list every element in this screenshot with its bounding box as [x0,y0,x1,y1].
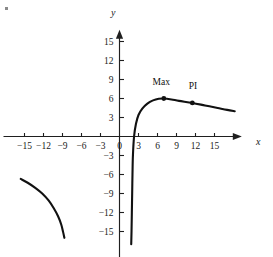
y-tick-label: 15 [104,37,114,47]
annotation-label: Max [153,77,171,87]
y-tick-label: −12 [99,208,114,218]
figure-background [0,0,273,257]
x-tick-label: −9 [57,141,67,151]
scan-artifact-speck [5,7,8,10]
x-tick-label: −15 [17,141,32,151]
y-tick-label: −15 [99,227,114,237]
x-tick-label: 12 [191,141,201,151]
annotation-marker-dot [161,96,166,101]
x-tick-label: 6 [155,141,160,151]
x-tick-label: −12 [36,141,51,151]
annotation-marker-dot [190,101,195,106]
y-tick-label: 3 [109,113,114,123]
x-tick-label: 9 [174,141,179,151]
y-tick-label: 6 [109,94,114,104]
y-tick-label: −6 [103,170,113,180]
x-tick-label: −3 [95,141,105,151]
y-tick-label: 9 [109,75,114,85]
y-tick-label: −3 [103,151,113,161]
annotation-label: PI [189,81,197,91]
x-tick-label: −6 [76,141,86,151]
graph-figure: −15−12−9−6−303691215−15−12−9−6−33691215 … [0,0,273,257]
x-tick-label: 3 [136,141,141,151]
y-tick-label: −9 [103,189,113,199]
x-tick-label: 15 [210,141,220,151]
y-tick-label: 12 [104,56,114,66]
x-tick-label: 0 [117,141,122,151]
x-axis-label: x [255,136,261,147]
y-axis-label: y [110,7,116,18]
coordinate-plane: −15−12−9−6−303691215−15−12−9−6−33691215 … [0,0,273,257]
